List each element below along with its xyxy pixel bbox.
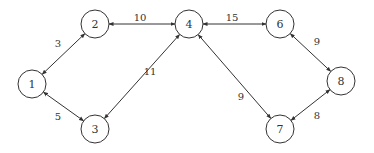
edge-4-7 <box>198 35 271 119</box>
node-8: 8 <box>327 67 355 95</box>
edge-weight-label: 15 <box>226 12 239 23</box>
edge-weight-label: 11 <box>144 66 157 77</box>
edge-weight-label: 9 <box>238 91 244 102</box>
node-label: 6 <box>277 18 284 31</box>
node-4: 4 <box>175 10 203 38</box>
node-label: 4 <box>186 18 193 31</box>
edge-weight-label: 5 <box>55 111 61 122</box>
edge-1-2 <box>42 34 85 75</box>
edge-weight-label: 10 <box>134 12 147 23</box>
edge-7-8 <box>291 90 330 121</box>
edge-6-8 <box>290 34 331 72</box>
node-1: 1 <box>18 70 46 98</box>
edges-layer <box>42 24 331 121</box>
edge-3-4 <box>104 34 179 118</box>
edge-weight-label: 3 <box>55 38 61 49</box>
node-7: 7 <box>266 115 294 143</box>
edge-1-3 <box>43 92 83 121</box>
node-label: 2 <box>92 18 99 31</box>
node-3: 3 <box>81 115 109 143</box>
node-2: 2 <box>81 10 109 38</box>
edge-weight-label: 9 <box>314 36 320 47</box>
node-label: 3 <box>92 123 99 136</box>
node-label: 1 <box>29 78 36 91</box>
node-6: 6 <box>266 10 294 38</box>
nodes-layer: 1234678 <box>18 10 355 143</box>
node-label: 7 <box>277 123 284 136</box>
edge-weight-label: 8 <box>314 110 320 121</box>
graph-diagram: 35101115998 1234678 <box>0 0 374 153</box>
node-label: 8 <box>338 75 345 88</box>
